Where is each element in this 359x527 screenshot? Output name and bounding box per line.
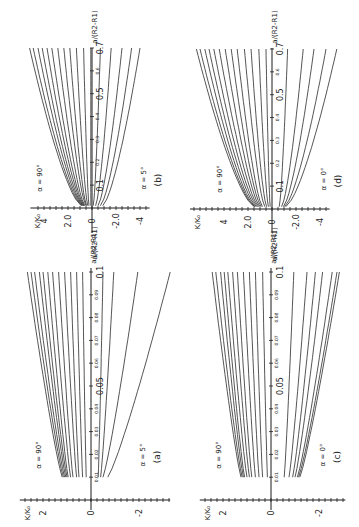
panel-a: 20-20.010.020.030.040.050.060.070.080.09…	[20, 230, 170, 520]
alpha-max-label: α = 90°	[35, 441, 43, 468]
data-curve	[263, 272, 268, 477]
k-tick-label: -2	[135, 509, 144, 517]
k-tick-label: 2.0	[64, 215, 73, 228]
x-axis-title: a/(R2-R1)	[270, 230, 278, 264]
x-tick-label: 0.01	[274, 472, 279, 482]
figure: 42.00-2.0-40.10.20.30.40.50.60.7K/K₀a/(R…	[0, 0, 359, 527]
data-curve	[259, 49, 269, 207]
x-tick-label: 0.08	[274, 312, 279, 322]
k-tick-label: -2.0	[112, 213, 121, 229]
k-tick-label: 0	[267, 510, 276, 515]
x-tick-label: 0.6	[275, 68, 280, 75]
data-curve	[47, 48, 84, 206]
x-axis-title: a/(R2-R1)	[91, 10, 99, 44]
alpha-max-label: α = 90°	[36, 164, 44, 191]
data-curve	[297, 272, 332, 477]
x-axis-title: a/(R2-R1)	[271, 10, 279, 44]
x-tick-label: 0.05	[96, 377, 105, 395]
x-tick-label: 0.03	[94, 426, 99, 436]
k-tick-label: 0	[268, 219, 277, 224]
data-curve	[196, 49, 254, 207]
data-curve	[244, 49, 264, 207]
k-tick-label: 2	[219, 510, 228, 515]
panel-d: 42.00-2.0-40.10.20.30.40.50.60.7K/K₀a/(R…	[190, 10, 343, 261]
x-tick-label: 0.3	[95, 136, 100, 143]
x-tick-label: 0.2	[275, 160, 280, 167]
data-curve	[283, 49, 314, 207]
k-axis-title: K/K₀	[204, 506, 212, 521]
x-tick-label: 0.07	[274, 335, 279, 345]
k-tick-label: -4	[316, 218, 325, 226]
x-tick-label: 0.05	[276, 377, 285, 395]
x-tick-label: 0.5	[277, 88, 286, 101]
data-curve	[286, 49, 337, 207]
x-tick-label: 0.07	[94, 335, 99, 345]
x-tick-label: 0.06	[274, 358, 279, 368]
x-tick-label: 0.04	[94, 404, 99, 414]
k-tick-label: -4	[136, 217, 145, 225]
x-tick-label: 0.04	[274, 404, 279, 414]
data-curve	[98, 272, 103, 477]
data-curve	[42, 48, 83, 206]
alpha-min-label: α = 0°	[320, 168, 328, 191]
panel-label: (a)	[152, 451, 162, 464]
alpha-min-label: α = 0°	[319, 444, 327, 467]
data-curve	[249, 272, 259, 477]
x-tick-label: 0.06	[94, 358, 99, 368]
x-tick-label: 0.02	[274, 449, 279, 459]
data-curve	[205, 49, 255, 207]
k-tick-label: 0	[87, 510, 96, 515]
x-tick-label: 0.5	[97, 87, 106, 100]
x-axis-title: a/(R2-R1)	[90, 230, 98, 264]
x-tick-label: 0.09	[94, 290, 99, 300]
data-curve	[64, 48, 86, 206]
data-curve	[255, 272, 262, 477]
data-curve	[237, 49, 262, 207]
panel-b: 42.00-2.0-40.10.20.30.40.50.60.7K/K₀a/(R…	[30, 10, 163, 260]
panel-label: (d)	[333, 175, 343, 188]
k-tick-label: -2.0	[292, 214, 301, 230]
k-tick-label: 4	[220, 219, 229, 224]
k-tick-label: 2.0	[244, 216, 253, 229]
alpha-min-label: α = 5°	[139, 444, 147, 467]
x-tick-label: 0.03	[274, 426, 279, 436]
k-axis-title: K/K₀	[34, 214, 42, 229]
data-curve	[65, 272, 77, 477]
x-tick-label: 0.3	[275, 137, 280, 144]
alpha-max-label: α = 90°	[216, 165, 224, 192]
panel-label: (b)	[153, 174, 163, 187]
alpha-max-label: α = 90°	[215, 441, 223, 468]
x-tick-label: 0.09	[274, 290, 279, 300]
panel-label: (c)	[332, 451, 342, 463]
k-tick-label: 0	[88, 218, 97, 223]
data-curve	[83, 272, 87, 477]
x-tick-label: 0.08	[94, 312, 99, 322]
data-curve	[266, 49, 270, 207]
k-axis-title: K/K₀	[24, 506, 32, 521]
k-axis-title: K/K₀	[194, 215, 202, 230]
x-tick-label: 0.1	[276, 266, 285, 279]
alpha-min-label: α = 5°	[140, 167, 148, 190]
k-tick-label: 2	[39, 510, 48, 515]
k-tick-label: -2	[315, 509, 324, 517]
panel-c: 20-20.010.020.030.040.050.060.070.080.09…	[200, 230, 346, 520]
x-tick-label: 0.4	[275, 114, 280, 121]
